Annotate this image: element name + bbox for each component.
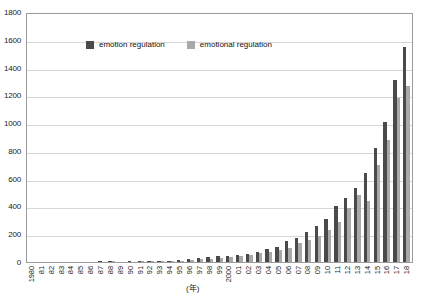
bar-group xyxy=(57,14,67,262)
bar-group xyxy=(333,14,343,262)
x-axis-tick-cell: 87 xyxy=(96,265,106,293)
legend-item: emotional regulation xyxy=(187,41,272,49)
x-axis-tick-cell: 84 xyxy=(67,265,77,293)
x-axis-tick-cell: 05 xyxy=(274,265,284,293)
bar-group xyxy=(136,14,146,262)
bar xyxy=(298,243,301,262)
x-axis-tick-cell: 16 xyxy=(383,265,393,293)
bar xyxy=(171,261,174,262)
x-axis-tick-cell: 99 xyxy=(215,265,225,293)
bar xyxy=(112,261,115,262)
x-axis-tick-cell: 2000 xyxy=(225,265,235,293)
bar-group xyxy=(215,14,225,262)
bar-group xyxy=(205,14,215,262)
bar-group xyxy=(107,14,117,262)
bar xyxy=(269,252,272,262)
x-axis-tick-label: 07 xyxy=(295,266,303,274)
x-axis-tick-label: 03 xyxy=(255,266,263,274)
bar-group xyxy=(352,14,362,262)
y-axis-tick-label: 800 xyxy=(8,148,21,156)
bar xyxy=(318,236,321,262)
bar xyxy=(288,248,291,262)
x-axis-tick-label: 01 xyxy=(236,266,244,274)
bar-group xyxy=(401,14,411,262)
bar xyxy=(220,258,223,262)
x-axis-tick-label: 92 xyxy=(147,266,155,274)
x-axis-tick-label: 81 xyxy=(38,266,46,274)
bar xyxy=(210,259,213,262)
bar-group xyxy=(362,14,372,262)
x-axis-tick-cell: 13 xyxy=(353,265,363,293)
x-axis-tick-cell: 12 xyxy=(343,265,353,293)
x-axis-tick-cell: 04 xyxy=(264,265,274,293)
x-axis-tick-label: 13 xyxy=(354,266,362,274)
legend-label: emotional regulation xyxy=(200,41,272,49)
bar-group xyxy=(284,14,294,262)
legend-item: emotion regulation xyxy=(86,41,165,49)
x-axis-tick-label: 14 xyxy=(364,266,372,274)
bar-group xyxy=(303,14,313,262)
bar-group xyxy=(166,14,176,262)
legend-swatch-icon xyxy=(86,41,94,49)
x-axis-tick-cell: 89 xyxy=(116,265,126,293)
bar xyxy=(338,222,341,262)
bar-group xyxy=(126,14,136,262)
bar xyxy=(239,256,242,262)
x-axis-tick-cell: 88 xyxy=(106,265,116,293)
x-axis-tick-cell: 92 xyxy=(146,265,156,293)
bar-group xyxy=(372,14,382,262)
x-axis-tick-cell: 18 xyxy=(402,265,412,293)
x-axis-tick-label: 1980 xyxy=(28,266,36,282)
y-axis-tick-label: 1400 xyxy=(4,65,21,73)
bar-group xyxy=(234,14,244,262)
bar-group xyxy=(175,14,185,262)
x-axis-tick-label: 12 xyxy=(344,266,352,274)
x-axis-tick-label: 02 xyxy=(245,266,253,274)
bar xyxy=(279,250,282,262)
bar xyxy=(328,230,331,262)
x-axis-tick-cell: 14 xyxy=(363,265,373,293)
x-axis-tick-cell: 94 xyxy=(165,265,175,293)
y-axis-tick-label: 600 xyxy=(8,176,21,184)
x-axis-tick-cell: 03 xyxy=(254,265,264,293)
bar-group xyxy=(185,14,195,262)
bar-group xyxy=(244,14,254,262)
x-axis-tick-label: 94 xyxy=(166,266,174,274)
x-axis-tick-label: 82 xyxy=(48,266,56,274)
x-axis-tick-cell: 90 xyxy=(126,265,136,293)
x-axis-tick-label: 99 xyxy=(216,266,224,274)
bar-group xyxy=(254,14,264,262)
legend-label: emotion regulation xyxy=(99,41,165,49)
bar-group xyxy=(264,14,274,262)
y-axis-tick-label: 1000 xyxy=(4,120,21,128)
bar xyxy=(357,195,360,262)
y-axis-tick-label: 400 xyxy=(8,203,21,211)
x-axis-tick-label: 17 xyxy=(394,266,402,274)
x-axis-tick-label: 18 xyxy=(403,266,411,274)
x-axis-tick-label: 98 xyxy=(206,266,214,274)
bar-group xyxy=(293,14,303,262)
bar-group xyxy=(67,14,77,262)
x-axis-tick-cell: 93 xyxy=(155,265,165,293)
bar-group xyxy=(313,14,323,262)
x-axis-tick-label: 04 xyxy=(265,266,273,274)
y-axis-tick-label: 1800 xyxy=(4,9,21,17)
x-axis-tick-cell: 98 xyxy=(205,265,215,293)
x-axis-tick-cell: 82 xyxy=(47,265,57,293)
bar xyxy=(347,208,350,262)
bar xyxy=(367,201,370,262)
bar-group xyxy=(97,14,107,262)
bar xyxy=(397,98,400,262)
x-axis-tick-cell: 17 xyxy=(392,265,402,293)
x-axis-tick-label: 96 xyxy=(186,266,194,274)
x-axis-tick-label: 05 xyxy=(275,266,283,274)
bar-group xyxy=(87,14,97,262)
bar-group xyxy=(392,14,402,262)
x-axis-tick-cell: 01 xyxy=(234,265,244,293)
bar xyxy=(141,261,144,262)
x-axis-tick-label: 06 xyxy=(285,266,293,274)
bar xyxy=(151,261,154,262)
x-axis-tick-cell: 11 xyxy=(333,265,343,293)
bar xyxy=(387,140,390,262)
x-axis-tick-label: 15 xyxy=(374,266,382,274)
